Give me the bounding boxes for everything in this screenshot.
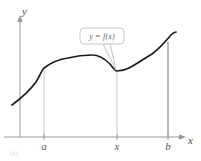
function-graph-figure: y x a x b y = f(x) (a): [0, 0, 201, 161]
callout-pointer: [103, 44, 116, 70]
x-axis-arrowhead: [179, 134, 186, 140]
y-axis-label: y: [22, 6, 27, 17]
tick-label-x: x: [110, 141, 124, 152]
x-axis-label: x: [188, 135, 193, 146]
function-callout-label: y = f(x): [84, 33, 120, 41]
tick-label-b: b: [161, 141, 175, 152]
tick-label-a: a: [37, 141, 51, 152]
graph-canvas: [0, 0, 201, 161]
figure-caption: (a): [10, 150, 18, 157]
